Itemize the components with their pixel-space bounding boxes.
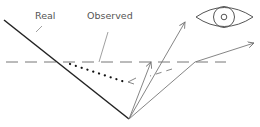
observed-arrowhead-icon xyxy=(128,78,136,84)
ray-incident xyxy=(129,62,195,119)
ray-upper xyxy=(129,22,185,119)
observed-leader-line xyxy=(99,32,108,62)
real-label: Real xyxy=(35,10,55,21)
ray-refracted xyxy=(195,43,254,62)
real-leader-line xyxy=(36,26,42,32)
real-surface-line xyxy=(4,20,129,119)
refraction-diagram: Real Observed xyxy=(0,0,260,127)
ray-inner xyxy=(129,62,151,119)
eye-icon xyxy=(196,7,253,28)
ray-backprojection xyxy=(150,69,172,76)
observed-label: Observed xyxy=(87,10,133,21)
